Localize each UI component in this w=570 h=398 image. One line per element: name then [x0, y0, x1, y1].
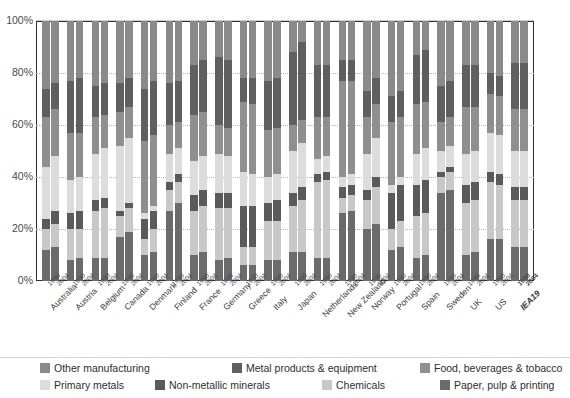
bar-us-2004[interactable] [496, 21, 504, 281]
segment-metal-products-equipment [413, 55, 421, 104]
segment-non-metallic-minerals [289, 193, 297, 206]
bar-norway-1990[interactable] [363, 21, 371, 281]
x-tick-country: US [493, 297, 509, 313]
legend-item-non-metallic-minerals[interactable]: Non-metallic minerals [155, 379, 270, 391]
bar-norway-2004[interactable] [372, 21, 380, 281]
bar-greece-2004[interactable] [249, 21, 257, 281]
segment-primary-metals [372, 138, 380, 177]
segment-primary-metals [76, 177, 84, 211]
segment-food-beverages-tobacco [249, 104, 257, 174]
segment-non-metallic-minerals [240, 206, 248, 248]
segment-other-manufacturing [397, 21, 405, 91]
bar-sweden-1990[interactable] [437, 21, 445, 281]
bar-uk-1990[interactable] [462, 21, 470, 281]
segment-other-manufacturing [101, 21, 109, 83]
bar-germany-2004[interactable] [224, 21, 232, 281]
segment-other-manufacturing [141, 21, 149, 89]
segment-non-metallic-minerals [520, 187, 528, 200]
bar-belgium-2004[interactable] [101, 21, 109, 281]
segment-primary-metals [273, 174, 281, 200]
segment-chemicals [520, 200, 528, 247]
segment-food-beverages-tobacco [141, 141, 149, 214]
legend-item-food-beverages-tobacco[interactable]: Food, beverages & tobacco [420, 362, 562, 374]
chart-root: 100%80%60%40%20%0% 19902004Australia1990… [0, 0, 570, 398]
segment-food-beverages-tobacco [42, 117, 50, 166]
bar-iea19-2004[interactable] [520, 21, 528, 281]
bar-portugal-1990[interactable] [388, 21, 396, 281]
segment-other-manufacturing [240, 21, 248, 78]
segment-chemicals [289, 206, 297, 253]
segment-other-manufacturing [150, 21, 158, 81]
segment-metal-products-equipment [446, 81, 454, 117]
segment-other-manufacturing [289, 21, 297, 52]
bar-groups [36, 21, 534, 281]
bar-australia-2004[interactable] [51, 21, 59, 281]
bar-finland-2004[interactable] [175, 21, 183, 281]
legend-item-primary-metals[interactable]: Primary metals [40, 379, 124, 391]
bar-new-zealand-2004[interactable] [348, 21, 356, 281]
bar-france-1990[interactable] [190, 21, 198, 281]
segment-chemicals [397, 221, 405, 247]
bar-portugal-2004[interactable] [397, 21, 405, 281]
x-axis-labels: 19902004Australia19902004Austria19902004… [36, 281, 534, 353]
segment-chemicals [141, 239, 149, 255]
segment-primary-metals [51, 156, 59, 211]
bar-italy-1990[interactable] [264, 21, 272, 281]
segment-paper-pulp-printing [339, 213, 347, 281]
segment-food-beverages-tobacco [264, 130, 272, 177]
bar-spain-1990[interactable] [413, 21, 421, 281]
segment-non-metallic-minerals [487, 172, 495, 182]
bar-new-zealand-1990[interactable] [339, 21, 347, 281]
bar-japan-1990[interactable] [289, 21, 297, 281]
bar-austria-2004[interactable] [76, 21, 84, 281]
segment-non-metallic-minerals [166, 182, 174, 190]
x-tick-country: Belgium [98, 283, 127, 312]
legend-row-2: Primary metalsNon-metallic mineralsChemi… [0, 379, 570, 396]
bar-australia-1990[interactable] [42, 21, 50, 281]
segment-metal-products-equipment [273, 78, 281, 127]
bar-us-1990[interactable] [487, 21, 495, 281]
segment-metal-products-equipment [116, 83, 124, 112]
legend-item-other-manufacturing[interactable]: Other manufacturing [40, 362, 150, 374]
bar-group-netherlands [310, 21, 335, 281]
legend-item-chemicals[interactable]: Chemicals [322, 379, 385, 391]
segment-chemicals [240, 247, 248, 265]
bar-spain-2004[interactable] [422, 21, 430, 281]
segment-metal-products-equipment [141, 89, 149, 141]
segment-other-manufacturing [116, 21, 124, 83]
segment-non-metallic-minerals [76, 211, 84, 229]
segment-metal-products-equipment [397, 91, 405, 117]
bar-france-2004[interactable] [199, 21, 207, 281]
segment-chemicals [42, 229, 50, 250]
bar-belgium-1990[interactable] [92, 21, 100, 281]
segment-food-beverages-tobacco [496, 96, 504, 135]
bar-denmark-2004[interactable] [150, 21, 158, 281]
segment-food-beverages-tobacco [413, 104, 421, 153]
bar-japan-2004[interactable] [298, 21, 306, 281]
segment-other-manufacturing [413, 21, 421, 55]
segment-food-beverages-tobacco [289, 125, 297, 151]
bar-austria-1990[interactable] [67, 21, 75, 281]
legend-item-paper-pulp-printing[interactable]: Paper, pulp & printing [440, 379, 554, 391]
segment-chemicals [125, 208, 133, 231]
bar-denmark-1990[interactable] [141, 21, 149, 281]
segment-metal-products-equipment [67, 81, 75, 133]
segment-primary-metals [413, 154, 421, 185]
bar-sweden-2004[interactable] [446, 21, 454, 281]
bar-germany-1990[interactable] [215, 21, 223, 281]
bar-canada-2004[interactable] [125, 21, 133, 281]
segment-chemicals [150, 229, 158, 252]
bar-uk-2004[interactable] [471, 21, 479, 281]
bar-iea19-1990[interactable] [511, 21, 519, 281]
bar-group-sweden [433, 21, 458, 281]
segment-food-beverages-tobacco [199, 112, 207, 156]
bar-finland-1990[interactable] [166, 21, 174, 281]
legend-item-metal-products-equipment[interactable]: Metal products & equipment [232, 362, 377, 374]
legend-swatch-icon [322, 380, 332, 390]
bar-canada-1990[interactable] [116, 21, 124, 281]
bar-netherlands-1990[interactable] [314, 21, 322, 281]
legend-label: Primary metals [54, 379, 124, 391]
bar-netherlands-2004[interactable] [323, 21, 331, 281]
bar-greece-1990[interactable] [240, 21, 248, 281]
bar-italy-2004[interactable] [273, 21, 281, 281]
